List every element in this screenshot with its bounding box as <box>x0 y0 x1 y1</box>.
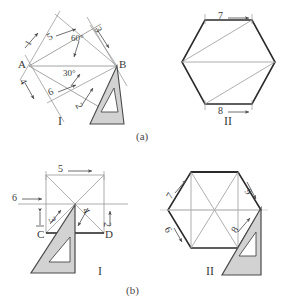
arrow-step-4 <box>25 83 34 99</box>
label-a1-roman: I <box>58 114 62 129</box>
construction-line-5b <box>55 14 117 66</box>
label-b1-step-5: 5 <box>58 163 63 174</box>
label-point-d: D <box>105 228 113 240</box>
label-point-c: C <box>37 228 44 240</box>
label-b1-step-6: 6 <box>12 192 17 203</box>
construction-line-4 <box>25 55 64 122</box>
label-b1-step-2: 2 <box>102 222 113 227</box>
caption-a: (a) <box>136 130 148 142</box>
panel-a2-geometry <box>182 14 275 112</box>
label-a2-step-8: 8 <box>218 105 223 116</box>
drawing-canvas <box>0 0 285 308</box>
construction-line-1 <box>20 11 60 80</box>
hexagon-a2-diagonal-lower <box>205 62 275 104</box>
label-point-a: A <box>18 58 26 70</box>
arrow-b2-step-7 <box>175 180 186 193</box>
label-a2-roman: II <box>224 114 232 129</box>
label-angle-30: 30° <box>63 68 76 78</box>
hexagon-a2-diagonal-upper <box>182 20 252 62</box>
arrow-step-6 <box>58 85 76 92</box>
leader-60deg <box>74 41 79 57</box>
ray-a-upper <box>29 24 101 66</box>
label-b1-roman: I <box>98 264 102 279</box>
label-a2-step-7: 7 <box>218 10 223 21</box>
label-b2-roman: II <box>206 264 214 279</box>
caption-b: (b) <box>126 284 139 296</box>
hexagon-construction-figure: A B 60° 30° 1 5 3 4 6 2 I 7 8 II (a) 5 6… <box>0 0 285 308</box>
set-square-a1 <box>90 66 124 124</box>
label-point-b: B <box>119 58 126 70</box>
label-angle-60: 60° <box>71 33 84 43</box>
